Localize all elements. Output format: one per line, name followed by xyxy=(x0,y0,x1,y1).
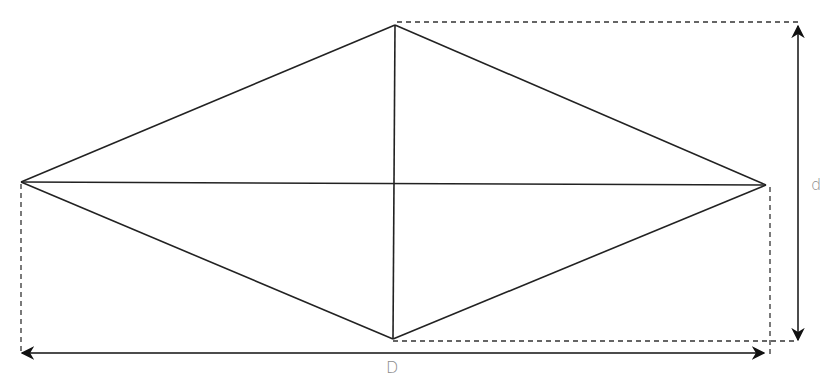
edge-top-left xyxy=(21,25,395,182)
short-diagonal-label: d xyxy=(811,175,821,194)
short-diagonal xyxy=(393,25,395,339)
dimension-arrows xyxy=(22,26,798,353)
edge-top-right xyxy=(395,25,766,185)
long-diagonal-label: D xyxy=(386,358,398,377)
diagonals xyxy=(21,25,766,339)
projection-lines xyxy=(21,22,800,356)
edge-bottom-right xyxy=(393,185,766,339)
edge-bottom-left xyxy=(21,182,393,339)
rhombus-diagram xyxy=(0,0,835,385)
